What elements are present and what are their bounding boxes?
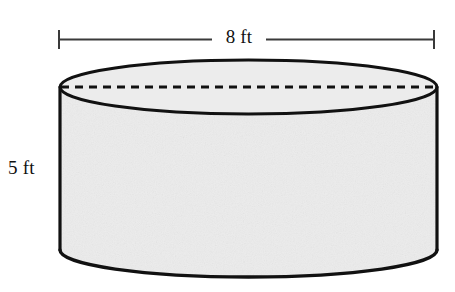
height-dimension-label: 5 ft (8, 158, 58, 177)
width-dimension-label: 8 ft (213, 27, 265, 46)
cylinder-figure: 8 ft 5 ft (0, 0, 455, 292)
cylinder-solid (55, 55, 445, 285)
